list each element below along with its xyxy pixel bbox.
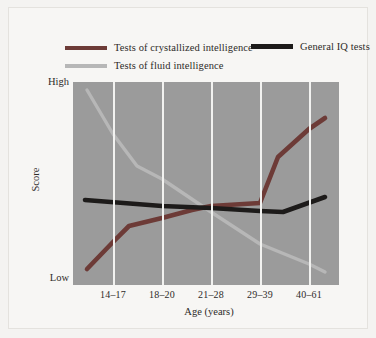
series-line-crystallized — [87, 118, 325, 269]
x-axis-tick-3: 29–39 — [233, 289, 287, 300]
gridline-4 — [260, 82, 262, 285]
gridline-5 — [309, 82, 311, 285]
x-axis-title: Age (years) — [149, 306, 269, 317]
y-axis-label-low: Low — [29, 272, 69, 283]
x-axis-tick-0: 14–17 — [86, 289, 140, 300]
series-line-fluid — [87, 90, 325, 272]
figure-inner-frame: Tests of crystallized intelligence Gener… — [8, 7, 368, 329]
y-axis-title: Score — [30, 150, 41, 210]
x-axis-tick-2: 21–28 — [184, 289, 238, 300]
x-axis-tick-4: 40–61 — [282, 289, 336, 300]
x-axis-tick-1: 18–20 — [135, 289, 189, 300]
gridline-3 — [211, 82, 213, 285]
series-line-general-iq — [85, 197, 325, 212]
y-axis-label-high: High — [29, 76, 69, 87]
gridline-2 — [162, 82, 164, 285]
chart-plot-area — [73, 82, 339, 285]
figure-card: Tests of crystallized intelligence Gener… — [0, 0, 376, 338]
chart-plot-wrapper: High Low Score 14–17 18–20 21–28 29–39 4… — [9, 8, 376, 338]
gridline-1 — [113, 82, 115, 285]
